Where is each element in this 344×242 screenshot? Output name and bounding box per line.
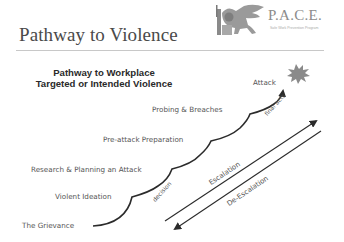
- stage-violent-ideation: Violent Ideation: [55, 192, 112, 201]
- stage-probing-breaches: Probing & Breaches: [152, 105, 222, 114]
- pathway-diagram: [0, 0, 344, 242]
- stage-grievance: The Grievance: [22, 221, 74, 230]
- escalation-arrow: [165, 121, 316, 221]
- stage-pre-attack-preparation: Pre-attack Preparation: [103, 135, 183, 144]
- stage-research-planning: Research & Planning an Attack: [31, 165, 142, 174]
- attack-burst-icon: [287, 64, 310, 84]
- de-escalation-arrow: [175, 131, 321, 229]
- stage-attack: Attack: [253, 78, 276, 87]
